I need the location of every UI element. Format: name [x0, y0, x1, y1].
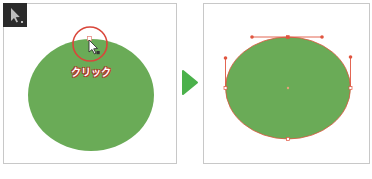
- bottom-anchor-point[interactable]: [287, 138, 290, 141]
- left-anchor-point[interactable]: [224, 87, 227, 90]
- path-edit-layer: [0, 0, 372, 179]
- top-left-handle-point[interactable]: [250, 35, 254, 39]
- left-handle-point[interactable]: [224, 56, 228, 60]
- right-handle-point[interactable]: [349, 55, 353, 59]
- top-right-handle-point[interactable]: [320, 35, 324, 39]
- right-anchor-point[interactable]: [349, 87, 352, 90]
- center-point: [287, 87, 289, 89]
- top-anchor-point-selected[interactable]: [286, 35, 290, 39]
